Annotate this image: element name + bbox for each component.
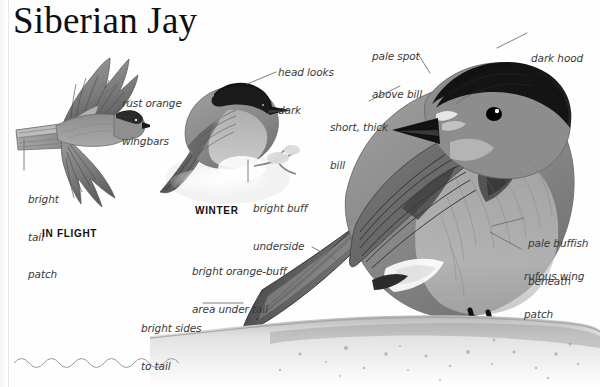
annotation-line: rust orange [122, 97, 182, 110]
annotation-line: short, thick [330, 121, 388, 134]
page-edge-shading [0, 0, 8, 387]
annotation-bright-sides-to-tail: bright sides to tail [141, 297, 201, 387]
page-margin-rule [8, 0, 9, 387]
annotation-line: bright [28, 193, 59, 206]
annotation-line: patch [28, 268, 59, 281]
annotation-line: bright sides [141, 322, 201, 335]
annotation-rufous-wing-patch: rufous wing patch [524, 245, 584, 345]
annotation-bright-orange-buff-area-under-tail: bright orange-buff area under tail [192, 240, 286, 340]
annotation-line: head looks [278, 66, 334, 79]
annotation-line: wingbars [122, 135, 182, 148]
annotation-line: to tail [141, 360, 201, 373]
plate-label-in-flight: IN FLIGHT [42, 228, 97, 239]
annotation-rust-orange-wingbars: rust orange wingbars [122, 72, 182, 172]
annotation-line: patch [524, 308, 584, 321]
annotation-line: bright orange-buff [192, 265, 286, 278]
annotation-line: pale spot [372, 50, 422, 63]
annotation-line: area under tail [192, 303, 286, 316]
field-guide-page: Siberian Jay [0, 0, 600, 387]
annotation-line: bright buff [253, 202, 307, 215]
annotation-line: bill [330, 159, 388, 172]
annotation-line: rufous wing [524, 270, 584, 283]
annotation-short-thick-bill: short, thick bill [330, 96, 388, 196]
annotation-dark-hood: dark hood [531, 27, 583, 90]
annotation-head-looks-dark: head looks dark [278, 41, 334, 141]
plate-label-winter: WINTER [195, 205, 239, 216]
annotation-line: dark [278, 104, 334, 117]
annotation-line: dark hood [531, 52, 583, 65]
